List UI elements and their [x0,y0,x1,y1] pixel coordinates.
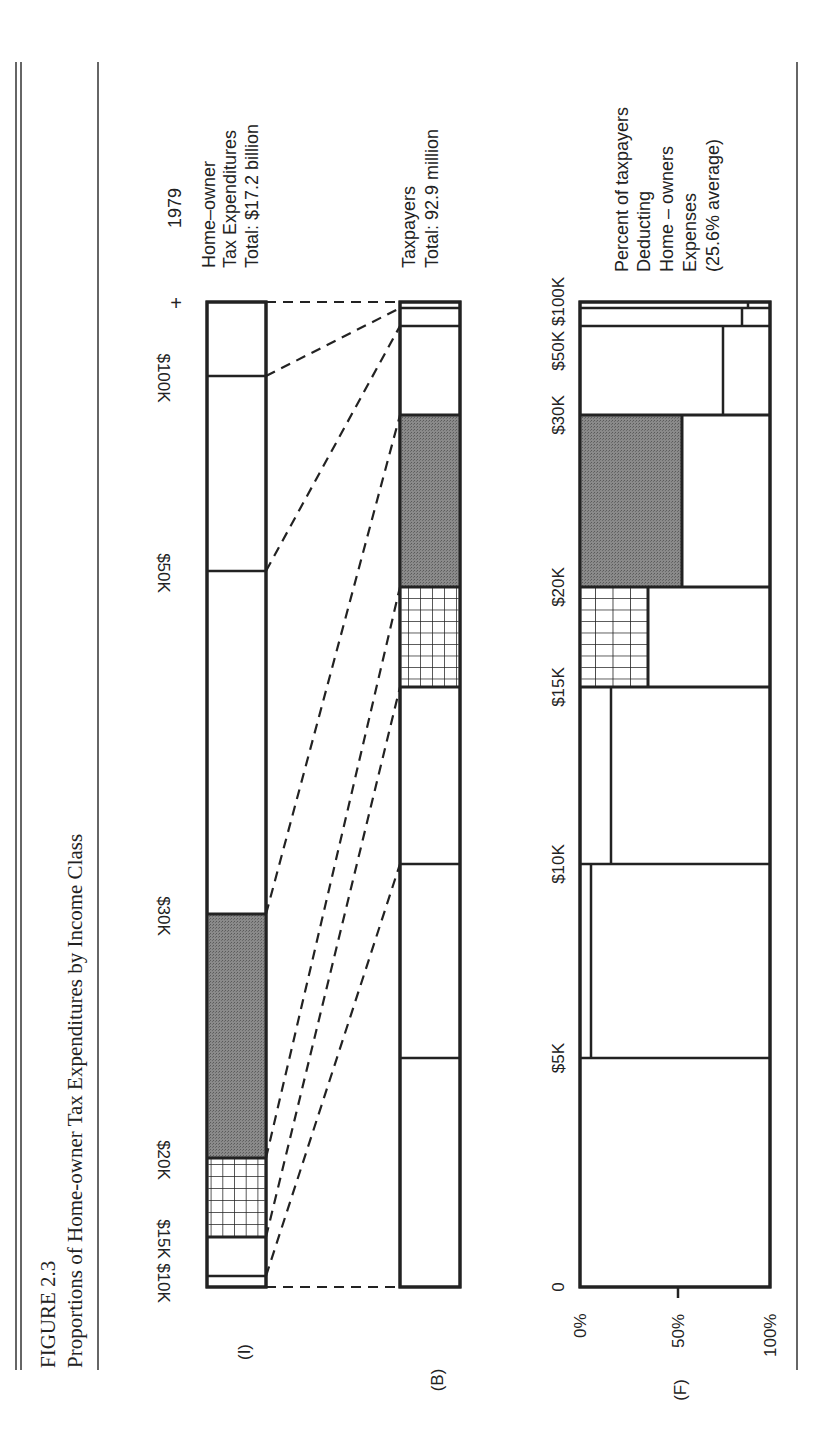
label-F-50K: $50K [549,330,568,370]
panel-F-bar [580,302,770,1298]
panel-I-income-labels: $10K $15K $20K $30K $50K $100K + [154,292,182,1304]
label-I-10K: $10K [154,1263,173,1303]
label-F-zero: 0 [549,1282,568,1291]
panel-tag-B: (B) [428,1369,447,1392]
header-I-line3: Total: $17.2 billion [242,124,262,268]
header-F-line1: Percent of taxpayers [612,107,632,272]
label-I-100K: $100K [154,353,173,403]
connector-lines [266,302,400,1287]
label-I-plus: + [170,292,182,314]
header-F-line5: (25.6% average) [703,139,723,272]
label-F-100K: $100K [549,276,568,326]
year-label: 1979 [165,188,185,228]
label-F-5K: $5K [549,1042,568,1073]
header-F-line2: Deducting [634,191,654,272]
figure-number: FIGURE 2.3 [36,1261,60,1368]
header-B-line2: Total: 92.9 million [422,129,442,268]
panel-tag-I: (I) [235,1344,254,1360]
label-I-50K: $50K [154,553,173,593]
label-F-15K: $15K [549,666,568,706]
header-F-line4: Expenses [680,193,700,272]
tick-0pct: 0% [571,1313,590,1338]
panel-F-axis: 0% 50% 100% [571,1313,780,1357]
label-I-20K: $20K [154,1140,173,1180]
header-I-line1: Home–owner [199,161,219,268]
panel-headers: 1979 Home–owner Tax Expenditures Total: … [165,107,723,272]
header-I-line2: Tax Expenditures [220,130,240,268]
segment-F-15-20K [582,587,649,687]
label-F-30K: $30K [549,394,568,434]
header-F-line3: Home – owners [657,146,677,272]
segment-I-15-20K [209,1158,265,1237]
header-B-line1: Taxpayers [399,186,419,268]
segment-I-20-30K [209,914,265,1158]
panel-I-bar [207,302,266,1287]
tick-50pct: 50% [669,1314,688,1348]
panel-tags: (I) (B) (F) [235,1344,690,1401]
label-I-30K: $30K [154,896,173,936]
panel-tag-F: (F) [671,1379,690,1401]
segment-F-20-30K [582,415,683,587]
panel-F-income-labels: $5K $10K $15K $20K $30K $50K $100K 0 [549,276,568,1292]
figure-caption: FIGURE 2.3 Proportions of Home-owner Tax… [36,834,87,1368]
panel-B-bar [400,302,460,1287]
figure-title: Proportions of Home-owner Tax Expenditur… [63,834,87,1368]
tick-100pct: 100% [761,1314,780,1357]
segment-B-15-20K [402,587,459,687]
figure-canvas: FIGURE 2.3 Proportions of Home-owner Tax… [0,0,816,1454]
segment-B-20-30K [402,415,459,587]
label-I-15K: $15K [154,1219,173,1259]
label-F-10K: $10K [549,843,568,883]
label-F-20K: $20K [549,566,568,606]
